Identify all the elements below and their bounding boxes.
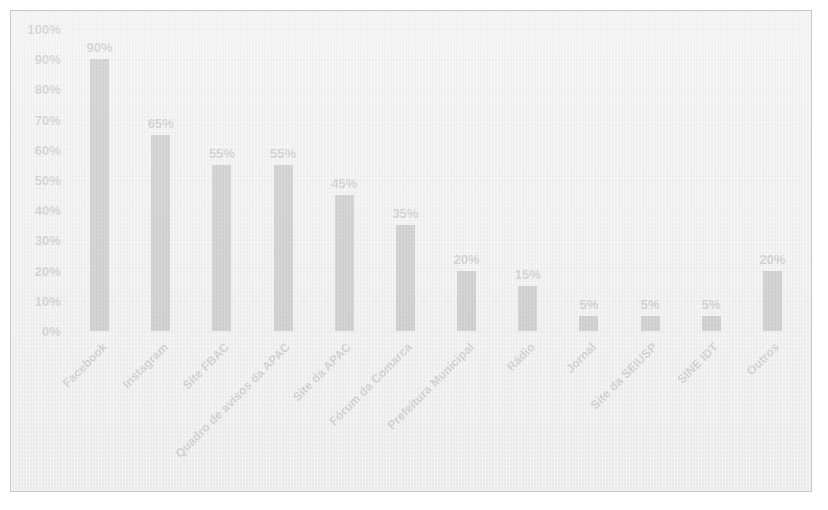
y-tick-label: 70% [35,112,61,127]
x-axis-category-label: Jornal [563,340,599,376]
bar-slot[interactable]: 20%Outros [749,29,795,331]
bar-value-label: 5% [580,297,599,312]
bar-slot[interactable]: 55%Quadro de avisos da APAC [260,29,306,331]
bar-value-label: 45% [331,176,357,191]
bar-value-label: 15% [515,267,541,282]
bar[interactable] [641,316,660,331]
bar-value-label: 35% [392,206,418,221]
bar-value-label: 55% [209,146,235,161]
bar-value-label: 55% [270,146,296,161]
bar-slot[interactable]: 90%Facebook [77,29,123,331]
bar-slot[interactable]: 55%Site FBAC [199,29,245,331]
x-axis-category-label: Site FBAC [180,340,232,392]
y-tick-label: 90% [35,52,61,67]
y-tick-label: 30% [35,233,61,248]
bar-value-label: 20% [759,252,785,267]
y-tick-label: 0% [42,324,61,339]
y-tick-label: 40% [35,203,61,218]
bar-value-label: 65% [148,116,174,131]
bar-slot[interactable]: 5%SINE IDT [688,29,734,331]
x-axis-category-label: SINE IDT [675,340,721,386]
bar-value-label: 5% [702,297,721,312]
x-axis-category-label: Site da APAC [290,340,354,404]
y-tick-label: 100% [27,22,61,37]
bar[interactable] [518,286,537,331]
bar[interactable] [212,165,231,331]
x-axis-category-label: Rádio [504,340,538,374]
bar[interactable] [763,271,782,331]
bar-slot[interactable]: 20%Prefeitura Municipal [444,29,490,331]
bar[interactable] [702,316,721,331]
bar[interactable] [274,165,293,331]
bar-slot[interactable]: 35%Fórum da Comarca [382,29,428,331]
y-tick-label: 80% [35,82,61,97]
gridline-0 [69,331,803,332]
y-tick-label: 60% [35,142,61,157]
bar-slot[interactable]: 15%Rádio [505,29,551,331]
y-tick-label: 20% [35,263,61,278]
bar-value-label: 20% [454,252,480,267]
bar[interactable] [90,59,109,331]
x-axis-category-label: Outros [744,340,782,378]
bar-slot[interactable]: 45%Site da APAC [321,29,367,331]
bar[interactable] [335,195,354,331]
bar-value-label: 90% [87,40,113,55]
x-axis-category-label: Facebook [59,340,109,390]
x-axis-category-label: Site da SEIUSP [588,340,660,412]
x-axis-category-label: Quadro de avisos da APAC [172,340,293,461]
bar-slot[interactable]: 5%Site da SEIUSP [627,29,673,331]
y-tick-label: 10% [35,293,61,308]
bar[interactable] [396,225,415,331]
x-axis-category-label: Instagram [120,340,171,391]
bar-slot[interactable]: 5%Jornal [566,29,612,331]
bar[interactable] [579,316,598,331]
y-tick-label: 50% [35,173,61,188]
bar-slot[interactable]: 65%Instagram [138,29,184,331]
bar[interactable] [457,271,476,331]
chart-frame: 0%10%20%30%40%50%60%70%80%90%100% 90%Fac… [10,10,812,492]
bar-value-label: 5% [641,297,660,312]
plot-area: 0%10%20%30%40%50%60%70%80%90%100% 90%Fac… [69,29,803,331]
bar[interactable] [151,135,170,331]
